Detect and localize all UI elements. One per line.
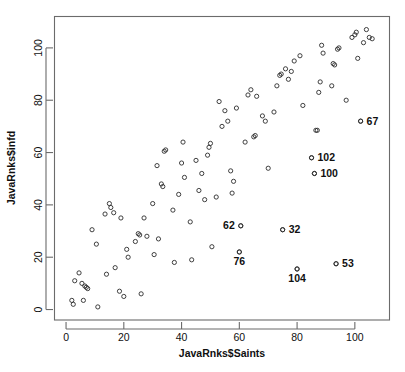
- data-point: [321, 51, 325, 55]
- data-point: [266, 166, 270, 170]
- x-tick-label: 40: [176, 331, 188, 343]
- data-point: [73, 279, 77, 283]
- data-point: [229, 169, 233, 173]
- data-point: [104, 272, 108, 276]
- data-point: [81, 298, 85, 302]
- data-point: [94, 242, 98, 246]
- data-point-label: 102: [318, 151, 336, 163]
- data-point: [190, 258, 194, 262]
- x-tick-label: 20: [118, 331, 130, 343]
- data-point: [194, 158, 198, 162]
- data-point: [179, 161, 183, 165]
- labeled-data-point: [334, 262, 338, 266]
- data-point-label: 32: [289, 223, 301, 235]
- data-point: [318, 80, 322, 84]
- data-point: [301, 103, 305, 107]
- data-point: [113, 266, 117, 270]
- data-point: [90, 228, 94, 232]
- data-point: [283, 67, 287, 71]
- data-point: [181, 140, 185, 144]
- data-point: [117, 289, 121, 293]
- data-point: [289, 69, 293, 73]
- data-point: [364, 27, 368, 31]
- data-point: [255, 94, 259, 98]
- data-point: [275, 84, 279, 88]
- data-point: [200, 171, 204, 175]
- data-point: [77, 271, 81, 275]
- data-point: [249, 88, 253, 92]
- data-point: [292, 59, 296, 63]
- data-point: [142, 216, 146, 220]
- data-point-label: 53: [342, 257, 354, 269]
- data-point-label: 100: [320, 167, 338, 179]
- data-point: [272, 110, 276, 114]
- plot-canvas: 020406080100 020406080100 67102100623276…: [0, 0, 405, 372]
- data-point: [356, 56, 360, 60]
- data-point: [226, 119, 230, 123]
- data-point: [177, 192, 181, 196]
- labeled-data-point: [295, 267, 299, 271]
- data-point: [223, 109, 227, 113]
- y-tick-label: 100: [32, 39, 44, 57]
- y-tick-label: 80: [32, 94, 44, 106]
- data-point: [263, 119, 267, 123]
- data-point: [344, 98, 348, 102]
- data-point: [220, 124, 224, 128]
- x-tick-label: 100: [346, 331, 364, 343]
- data-point: [214, 195, 218, 199]
- data-point-label: 76: [233, 255, 245, 267]
- x-tick-label: 60: [233, 331, 245, 343]
- data-point: [246, 93, 250, 97]
- x-axis: 020406080100: [63, 322, 364, 343]
- x-tick-label: 0: [63, 331, 69, 343]
- data-point: [156, 237, 160, 241]
- y-axis-title: JavaRnks$infd: [5, 131, 17, 205]
- data-point: [139, 292, 143, 296]
- data-point: [260, 114, 264, 118]
- x-axis-title: JavaRnks$Saints: [179, 347, 266, 359]
- data-point: [208, 141, 212, 145]
- y-tick-label: 0: [32, 306, 44, 312]
- labeled-data-point: [237, 250, 241, 254]
- data-point: [171, 208, 175, 212]
- data-point: [243, 140, 247, 144]
- data-point: [361, 41, 365, 45]
- data-point: [182, 175, 186, 179]
- data-point: [122, 294, 126, 298]
- data-point: [317, 90, 321, 94]
- labeled-data-point: [239, 224, 243, 228]
- labeled-data-point: [309, 156, 313, 160]
- y-tick-label: 60: [32, 147, 44, 159]
- data-point: [145, 234, 149, 238]
- labeled-data-point: [312, 171, 316, 175]
- data-point: [119, 216, 123, 220]
- y-tick-label: 20: [32, 251, 44, 263]
- data-point: [286, 77, 290, 81]
- data-point: [234, 106, 238, 110]
- labeled-data-point: [281, 228, 285, 232]
- data-point: [210, 245, 214, 249]
- data-point: [217, 99, 221, 103]
- data-point: [109, 205, 113, 209]
- data-point: [231, 179, 235, 183]
- data-point: [71, 302, 75, 306]
- data-point: [152, 252, 156, 256]
- data-point: [197, 188, 201, 192]
- data-point-label: 67: [367, 115, 379, 127]
- data-point: [96, 305, 100, 309]
- data-point: [103, 212, 107, 216]
- data-point-label: 104: [288, 272, 306, 284]
- data-point: [330, 84, 334, 88]
- data-point: [298, 54, 302, 58]
- data-point: [320, 43, 324, 47]
- data-point: [230, 191, 234, 195]
- data-point: [188, 220, 192, 224]
- x-tick-label: 80: [291, 331, 303, 343]
- scatter-plot-figure: 020406080100 020406080100 67102100623276…: [0, 0, 405, 372]
- data-point: [205, 153, 209, 157]
- data-point: [155, 164, 159, 168]
- y-axis: 020406080100: [32, 39, 53, 312]
- data-point: [203, 198, 207, 202]
- data-point: [126, 255, 130, 259]
- data-point: [125, 247, 129, 251]
